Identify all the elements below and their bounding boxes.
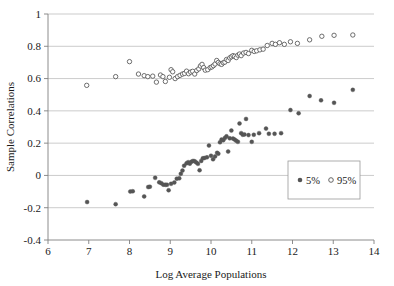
- data-point: [267, 132, 271, 136]
- data-point: [146, 74, 150, 78]
- data-point: [196, 162, 200, 166]
- x-tick-label: 13: [328, 245, 340, 257]
- chart-legend: 5% 95%: [288, 161, 360, 199]
- data-point: [207, 144, 211, 148]
- chart-canvas: -0.4-0.200.20.40.60.81 67891011121314 Sa…: [0, 0, 394, 286]
- data-point: [288, 108, 292, 112]
- data-point: [308, 94, 312, 98]
- data-point: [165, 183, 169, 187]
- data-point: [226, 150, 230, 154]
- data-point: [180, 169, 184, 173]
- data-point: [279, 131, 283, 135]
- data-point: [261, 47, 265, 51]
- data-point: [264, 127, 268, 131]
- data-point: [320, 34, 324, 38]
- data-point: [172, 181, 176, 185]
- data-point: [351, 88, 355, 92]
- data-point: [332, 101, 336, 105]
- legend-label-95: 95%: [337, 175, 357, 186]
- data-point: [154, 80, 158, 84]
- y-axis-title: Sample Correlations: [4, 82, 16, 172]
- data-point: [161, 74, 165, 78]
- data-point: [171, 70, 175, 74]
- x-axis-title: Log Average Populations: [156, 268, 267, 280]
- data-point: [151, 74, 155, 78]
- x-tick-label: 11: [246, 245, 257, 257]
- data-point: [142, 194, 146, 198]
- data-point: [252, 133, 256, 137]
- data-point: [250, 140, 254, 144]
- data-point: [148, 185, 152, 189]
- legend-marker-95-icon: [329, 178, 334, 183]
- legend-label-5: 5%: [306, 175, 320, 186]
- x-tick-label: 7: [86, 245, 92, 257]
- data-point: [351, 33, 355, 37]
- x-tick-label: 6: [45, 245, 51, 257]
- data-point: [257, 131, 261, 135]
- x-tick-label: 8: [127, 245, 133, 257]
- data-point: [167, 75, 171, 79]
- y-tick-label: 0.4: [27, 105, 41, 117]
- data-point: [85, 83, 89, 87]
- data-point: [244, 117, 248, 121]
- data-point: [127, 59, 131, 63]
- data-point: [242, 132, 246, 136]
- y-tick-label: -0.2: [24, 202, 41, 214]
- data-point: [236, 140, 240, 144]
- data-point: [209, 154, 213, 158]
- data-point: [332, 33, 336, 37]
- data-point: [297, 111, 301, 115]
- data-point: [163, 79, 167, 83]
- data-point: [238, 121, 242, 125]
- y-tick-label: 0.6: [27, 72, 41, 84]
- data-point: [167, 188, 171, 192]
- data-point: [85, 200, 89, 204]
- data-point: [198, 168, 202, 172]
- data-point: [136, 72, 140, 76]
- data-point: [113, 74, 117, 78]
- data-point: [282, 42, 286, 46]
- y-tick-label: 1: [36, 8, 42, 20]
- data-point: [216, 152, 220, 156]
- data-point: [319, 98, 323, 102]
- data-point: [246, 133, 250, 137]
- x-tick-label: 9: [168, 245, 174, 257]
- data-point: [153, 176, 157, 180]
- x-tick-label: 12: [287, 245, 298, 257]
- data-point: [288, 40, 292, 44]
- x-tick-label: 14: [369, 245, 381, 257]
- y-tick-label: -0.4: [24, 234, 42, 246]
- scatter-chart-figure: -0.4-0.200.20.40.60.81 67891011121314 Sa…: [0, 0, 394, 286]
- data-point: [131, 189, 135, 193]
- data-point: [229, 129, 233, 133]
- data-point: [177, 176, 181, 180]
- data-point: [213, 154, 217, 158]
- data-point: [277, 41, 281, 45]
- data-point: [265, 43, 269, 47]
- data-point: [295, 41, 299, 45]
- y-tick-label: 0: [36, 169, 42, 181]
- y-tick-label: 0.8: [27, 40, 41, 52]
- legend-marker-5-icon: [298, 178, 303, 183]
- data-point: [307, 38, 311, 42]
- x-tick-label: 10: [206, 245, 218, 257]
- data-point: [205, 155, 209, 159]
- data-point: [273, 132, 277, 136]
- data-point: [114, 202, 118, 206]
- y-tick-label: 0.2: [27, 137, 41, 149]
